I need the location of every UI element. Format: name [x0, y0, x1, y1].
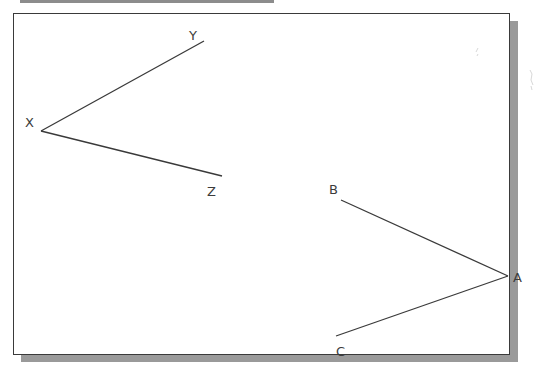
- label-y: Y: [188, 28, 197, 43]
- label-z: Z: [207, 184, 216, 199]
- faint-marks: [476, 48, 533, 90]
- segment-xz: [41, 131, 222, 176]
- label-c: C: [336, 344, 345, 359]
- angle-bac: A B C: [329, 182, 522, 359]
- angles-diagram: X Y Z A B C: [0, 0, 551, 374]
- label-b: B: [329, 182, 338, 197]
- segment-xy: [41, 41, 204, 131]
- segment-ab: [341, 200, 508, 276]
- segment-ac: [336, 276, 508, 336]
- label-a: A: [513, 270, 522, 285]
- angle-yxz: X Y Z: [25, 28, 222, 199]
- label-x: X: [25, 115, 34, 130]
